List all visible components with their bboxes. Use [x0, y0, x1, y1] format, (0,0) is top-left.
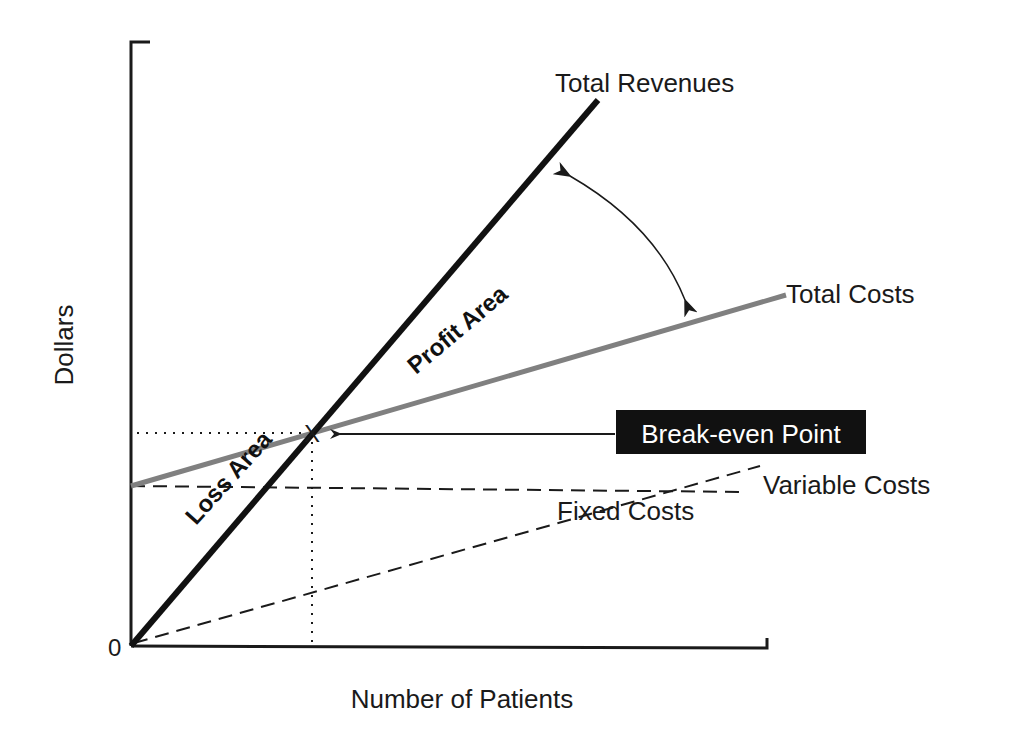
- total-costs-label: Total Costs: [786, 279, 915, 309]
- fixed-costs-label: Fixed Costs: [557, 496, 694, 526]
- break-even-label: Break-even Point: [616, 410, 866, 454]
- x-axis-label: Number of Patients: [351, 684, 574, 714]
- break-even-diagram: X Break-even Point Total Revenues Total …: [0, 0, 1011, 746]
- y-axis-label: Dollars: [49, 305, 79, 386]
- variable-costs-label: Variable Costs: [763, 470, 930, 500]
- loss-area-label: Loss Area: [180, 425, 278, 529]
- margin-double-arrow: [570, 176, 685, 300]
- x-axis: [131, 638, 767, 648]
- total-revenues-label: Total Revenues: [555, 68, 734, 98]
- total-revenues-line: [131, 100, 598, 646]
- svg-text:Break-even Point: Break-even Point: [641, 419, 841, 449]
- profit-area-label: Profit Area: [402, 279, 513, 378]
- break-even-marker: X: [304, 420, 320, 447]
- y-axis: [131, 42, 150, 646]
- origin-label: 0: [108, 634, 121, 661]
